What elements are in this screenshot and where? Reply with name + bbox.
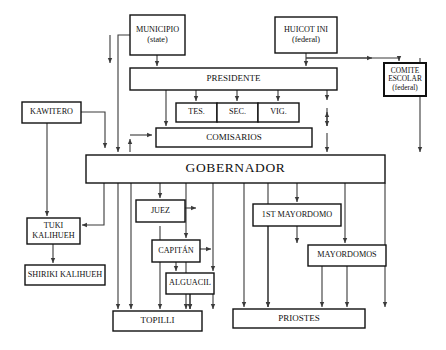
node-label-comisarios: COMISARIOS (206, 132, 262, 142)
node-label-kawitero: KAWITERO (30, 107, 73, 116)
node-label-mayordomos: MAYORDOMOS (317, 250, 377, 259)
node-label-municipio: MUNICIPIO (136, 25, 179, 34)
node-comite[interactable]: COMITEESCOLAR(federal) (384, 63, 426, 96)
node-label-alguacil: ALGUACIL (169, 278, 211, 287)
node-topilli[interactable]: TOPILLI (113, 311, 202, 331)
node-capitan[interactable]: CAPITÁN (152, 240, 200, 262)
node-tuki[interactable]: TUKIKALIHUEH (27, 218, 80, 244)
connector-1 (118, 35, 130, 152)
node-label-tuki: TUKI (44, 221, 64, 230)
node-mayordomo1[interactable]: 1ST MAYORDOMO (253, 204, 341, 226)
node-label-huicot-1: (federal) (292, 35, 320, 44)
node-huicot[interactable]: HUICOT INI(federal) (275, 17, 337, 53)
connector-5 (306, 58, 399, 61)
node-label-municipio-1: (state) (147, 35, 168, 44)
node-shiriki[interactable]: SHIRIKI KALIHUEH (25, 265, 105, 285)
node-label-tuki-1: KALIHUEH (32, 231, 74, 240)
node-juez[interactable]: JUEZ (136, 200, 185, 222)
node-label-tes: TES. (188, 107, 205, 116)
organization-chart: MUNICIPIO(state)HUICOT INI(federal)COMIT… (0, 0, 446, 350)
node-gobernador[interactable]: GOBERNADOR (86, 155, 385, 183)
node-label-presidente: PRESIDENTE (207, 73, 262, 83)
node-presidente[interactable]: PRESIDENTE (130, 68, 337, 90)
connector-17 (81, 112, 105, 148)
node-comisarios[interactable]: COMISARIOS (156, 128, 312, 147)
node-label-priostes: PRIOSTES (278, 313, 320, 323)
node-label-sec: SEC. (229, 107, 246, 116)
node-label-gobernador: GOBERNADOR (186, 160, 286, 175)
node-label-juez: JUEZ (151, 206, 170, 215)
node-label-mayordomo1: 1ST MAYORDOMO (262, 210, 332, 219)
node-label-comite-2: (federal) (392, 83, 418, 92)
node-label-vig: VIG. (270, 107, 287, 116)
node-tes[interactable]: TES. (176, 103, 217, 122)
node-alguacil[interactable]: ALGUACIL (166, 273, 214, 294)
node-kawitero[interactable]: KAWITERO (22, 102, 81, 123)
connector-25 (82, 183, 104, 225)
node-mayordomos[interactable]: MAYORDOMOS (308, 245, 386, 266)
chart-canvas: MUNICIPIO(state)HUICOT INI(federal)COMIT… (0, 0, 446, 350)
node-priostes[interactable]: PRIOSTES (233, 309, 365, 328)
node-vig[interactable]: VIG. (258, 103, 299, 122)
node-label-topilli: TOPILLI (141, 315, 175, 325)
node-sec[interactable]: SEC. (217, 103, 258, 122)
node-municipio[interactable]: MUNICIPIO(state) (130, 15, 185, 55)
node-label-huicot: HUICOT INI (284, 25, 328, 34)
node-label-shiriki: SHIRIKI KALIHUEH (28, 270, 102, 279)
node-label-capitan: CAPITÁN (158, 245, 194, 255)
node-layer: MUNICIPIO(state)HUICOT INI(federal)COMIT… (22, 15, 426, 331)
